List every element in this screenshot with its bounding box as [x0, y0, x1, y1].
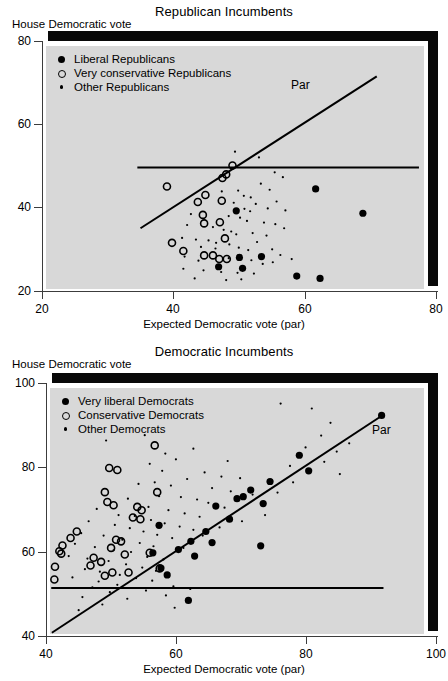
data-point-small	[86, 557, 88, 559]
data-point-open	[101, 572, 108, 579]
data-point-small	[78, 609, 80, 611]
data-point-small	[81, 596, 83, 598]
data-point-small	[119, 574, 121, 576]
data-point-small	[107, 560, 109, 562]
data-point-small	[88, 520, 90, 522]
x-axis-line-republican	[42, 291, 438, 292]
data-point-small	[223, 229, 225, 231]
data-point-small	[220, 475, 222, 477]
x-tick-100-democratic	[436, 636, 437, 644]
legend-republican: Liberal Republicans Very conservative Re…	[56, 52, 231, 94]
chart-title-republican: Republican Incumbents	[0, 4, 448, 19]
y-tick-20-republican	[34, 291, 42, 292]
data-point-small	[276, 491, 278, 493]
data-point-small	[149, 463, 151, 465]
y-tick-label-100-democratic: 100	[0, 376, 35, 390]
y-tick-label-40-democratic: 40	[0, 629, 35, 643]
panel-shadow-top-republican	[48, 31, 438, 41]
data-point-small	[348, 442, 350, 444]
data-point-small	[127, 498, 129, 500]
data-point-small	[80, 532, 82, 534]
data-point-open	[67, 535, 74, 542]
data-point-open	[114, 467, 121, 474]
legend-label-liberal-republicans: Liberal Republicans	[74, 53, 175, 65]
data-point-small	[195, 238, 197, 240]
data-point-filled	[257, 542, 264, 549]
x-axis-label-democratic: Expected Democratic vote (par)	[0, 663, 448, 675]
data-point-filled	[208, 539, 215, 546]
data-point-small	[199, 516, 201, 518]
data-point-small	[91, 586, 93, 588]
data-point-small	[228, 257, 230, 259]
data-point-small	[121, 539, 123, 541]
y-tick-label-80-democratic: 80	[0, 460, 35, 474]
data-point-small	[182, 547, 184, 549]
data-point-small	[175, 458, 177, 460]
data-point-open	[101, 489, 108, 496]
data-point-open	[110, 502, 117, 509]
x-tick-label-80-democratic: 80	[286, 647, 326, 661]
data-point-open	[121, 551, 128, 558]
data-point-open	[87, 562, 94, 569]
data-point-small	[264, 514, 266, 516]
data-point-small	[202, 269, 204, 271]
data-point-small	[207, 239, 209, 241]
data-point-small	[184, 512, 186, 514]
x-tick-label-60-democratic: 60	[156, 647, 196, 661]
data-point-small	[267, 207, 269, 209]
legend-label-very-liberal-democrats: Very liberal Democrats	[78, 395, 194, 407]
data-point-filled	[191, 553, 198, 560]
y-axis-label-republican: House Democratic vote	[12, 18, 132, 30]
data-point-small	[265, 234, 267, 236]
data-point-small	[126, 598, 128, 600]
data-point-small	[249, 210, 251, 212]
data-point-small	[230, 230, 232, 232]
data-point-small	[336, 450, 338, 452]
legend-label-other-democrats: Other Democrats	[78, 423, 166, 435]
data-point-small	[170, 484, 172, 486]
data-point-small	[323, 461, 325, 463]
data-point-small	[234, 151, 236, 153]
data-point-small	[203, 471, 205, 473]
y-tick-40-democratic	[38, 636, 46, 637]
data-point-small	[105, 439, 107, 441]
data-point-small	[247, 249, 249, 251]
data-point-small	[251, 494, 253, 496]
data-point-filled	[316, 275, 323, 282]
data-point-small	[255, 203, 257, 205]
data-point-small	[154, 481, 156, 483]
data-point-filled	[240, 493, 247, 500]
data-point-small	[263, 221, 265, 223]
data-point-small	[68, 555, 70, 557]
legend-label-conservative-democrats: Conservative Democrats	[78, 409, 204, 421]
data-point-filled	[233, 207, 240, 214]
data-point-filled	[202, 528, 209, 535]
data-point-small	[233, 202, 235, 204]
series-very-conservative-republicans	[163, 162, 236, 263]
small-dot-icon	[60, 85, 63, 88]
data-point-filled	[233, 495, 240, 502]
panel-shadow-top-democratic	[52, 373, 438, 383]
data-point-filled	[305, 467, 312, 474]
data-point-small	[272, 261, 274, 263]
data-point-small	[186, 224, 188, 226]
data-point-filled	[212, 502, 219, 509]
data-point-small	[329, 422, 331, 424]
data-point-small	[253, 273, 255, 275]
data-point-small	[211, 487, 213, 489]
data-point-small	[179, 525, 181, 527]
data-point-small	[238, 247, 240, 249]
data-point-filled	[239, 265, 246, 272]
data-point-open	[51, 563, 58, 570]
open-circle-icon	[58, 70, 66, 78]
data-point-small	[125, 563, 127, 565]
data-point-small	[172, 585, 174, 587]
data-point-small	[262, 263, 264, 265]
data-point-filled	[247, 486, 254, 493]
data-point-small	[258, 156, 260, 158]
open-circle-icon	[62, 412, 70, 420]
data-point-filled	[258, 253, 265, 260]
data-point-small	[137, 483, 139, 485]
data-point-small	[292, 481, 294, 483]
data-point-small	[139, 542, 141, 544]
